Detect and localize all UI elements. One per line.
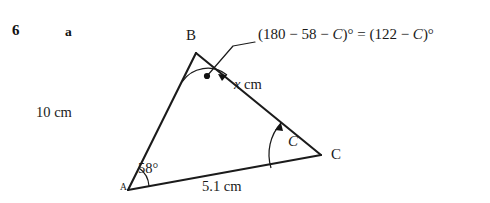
annotation-leader-dot <box>204 73 210 79</box>
annotation-leader-line <box>207 42 255 76</box>
vertex-label-a: A <box>120 182 127 192</box>
vertex-label-c: C <box>331 146 341 163</box>
annotation-prefix: (180 − 58 − <box>258 26 332 42</box>
side-label-ab: 10 cm <box>36 104 72 121</box>
angle-b-annotation: (180 − 58 − C)° = (122 − C)° <box>258 26 434 43</box>
angle-label-a: 58° <box>138 160 158 177</box>
vertex-label-b: B <box>186 27 196 44</box>
annotation-variable-1: C <box>332 26 342 42</box>
side-label-bc: x cm <box>234 76 262 93</box>
angle-label-c: C <box>288 133 298 150</box>
annotation-suffix: )° <box>423 26 434 42</box>
side-label-bc-unit: cm <box>240 76 261 92</box>
figure-root: 6 a B A C C 58° 10 cm x cm 5.1 cm (180 −… <box>0 0 490 203</box>
annotation-middle: )° = (122 − <box>342 26 412 42</box>
side-label-ac: 5.1 cm <box>202 178 241 195</box>
triangle-side-bc <box>196 53 321 155</box>
annotation-variable-2: C <box>413 26 423 42</box>
